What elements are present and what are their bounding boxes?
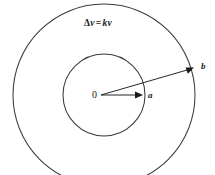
formula-label: Δv=kv (84, 19, 112, 29)
formula-rhs-var: v (108, 18, 113, 28)
arrow-head-a (135, 92, 143, 99)
radius-arrow-a (101, 92, 143, 99)
figure-canvas: Δv=kv 0 a b (0, 0, 215, 175)
center-label: 0 (92, 90, 97, 100)
inner-radius-label-a: a (148, 91, 153, 100)
outer-circle (13, 4, 195, 175)
outer-radius-label-b: b (201, 62, 206, 71)
formula-operator: = (95, 18, 103, 28)
